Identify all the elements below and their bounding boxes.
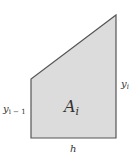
trapezoid-diagram: Ai yi − 1 yi h [0,0,136,161]
width-label: h [70,143,76,154]
trapezoid-area-region [31,15,116,138]
left-height-label: yi − 1 [2,103,26,116]
right-height-label: yi [120,78,129,91]
